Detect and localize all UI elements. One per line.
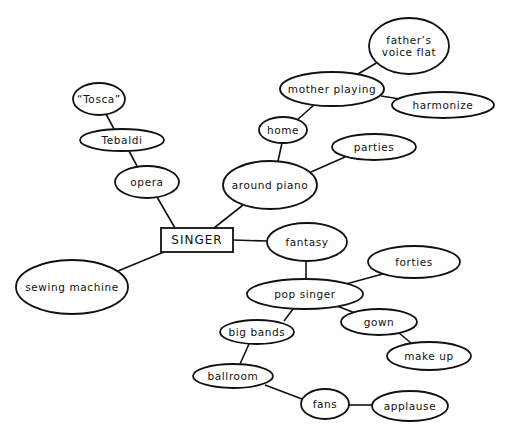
- node-label: harmonize: [413, 99, 474, 111]
- edges-layer: [106, 62, 411, 405]
- edge-singer-sewing-machine: [118, 252, 164, 271]
- node-label: “Tosca”: [77, 93, 121, 105]
- node-applause: applause: [372, 391, 448, 421]
- node-fathers-voice-flat: father’svoice flat: [369, 18, 449, 74]
- node-label: voice flat: [382, 46, 436, 58]
- node-fans: fans: [301, 389, 349, 419]
- node-around-piano: around piano: [223, 161, 317, 209]
- node-label: applause: [384, 400, 437, 412]
- edge-tosca-tebaldi: [106, 114, 114, 129]
- node-label: forties: [395, 256, 433, 268]
- node-label: fans: [313, 398, 338, 410]
- node-label: make up: [404, 350, 454, 362]
- nodes-layer: “Tosca”Tebaldioperasewing machinearound …: [16, 18, 494, 421]
- mind-map-canvas: “Tosca”Tebaldioperasewing machinearound …: [0, 0, 514, 441]
- node-label: father’s: [386, 34, 431, 46]
- edge-home-mother-playing: [297, 105, 314, 120]
- node-tosca: “Tosca”: [73, 83, 125, 115]
- node-label: mother playing: [288, 83, 376, 95]
- edge-around-piano-parties: [311, 157, 345, 172]
- edge-singer-around-piano: [214, 205, 243, 228]
- node-label: big bands: [229, 326, 286, 338]
- node-label: opera: [130, 176, 163, 188]
- node-mother-playing: mother playing: [280, 72, 384, 106]
- edge-mother-playing-fathers-voice-flat: [358, 62, 378, 74]
- node-forties: forties: [368, 246, 460, 278]
- node-label: around piano: [232, 179, 309, 191]
- node-sewing-machine: sewing machine: [16, 260, 128, 314]
- node-label: sewing machine: [25, 281, 119, 293]
- node-big-bands: big bands: [220, 320, 294, 344]
- node-gown: gown: [341, 309, 417, 335]
- edge-tebaldi-opera: [129, 151, 137, 166]
- node-label: pop singer: [274, 288, 336, 300]
- node-pop-singer: pop singer: [247, 279, 363, 309]
- edge-ballroom-fans: [265, 385, 302, 399]
- center-node: SINGER: [161, 228, 233, 252]
- node-ballroom: ballroom: [193, 364, 273, 388]
- node-label: Tebaldi: [101, 134, 143, 146]
- edge-gown-make-up: [399, 333, 411, 343]
- node-label: home: [267, 124, 299, 136]
- center-label: SINGER: [171, 233, 222, 247]
- edge-opera-singer: [157, 197, 175, 228]
- edge-pop-singer-big-bands: [284, 309, 293, 321]
- edge-singer-fantasy: [233, 240, 267, 241]
- node-fantasy: fantasy: [267, 223, 347, 261]
- node-make-up: make up: [387, 342, 471, 370]
- node-home: home: [259, 117, 307, 143]
- node-label: parties: [354, 141, 395, 153]
- node-tebaldi: Tebaldi: [80, 129, 164, 151]
- node-opera: opera: [115, 166, 179, 198]
- node-parties: parties: [332, 134, 416, 160]
- node-label: gown: [364, 316, 395, 328]
- edge-big-bands-ballroom: [240, 344, 249, 364]
- node-label: ballroom: [208, 370, 259, 382]
- node-harmonize: harmonize: [392, 92, 494, 118]
- node-label: fantasy: [285, 236, 328, 248]
- edge-around-piano-home: [278, 143, 282, 161]
- mind-map-diagram: “Tosca”Tebaldioperasewing machinearound …: [0, 0, 514, 441]
